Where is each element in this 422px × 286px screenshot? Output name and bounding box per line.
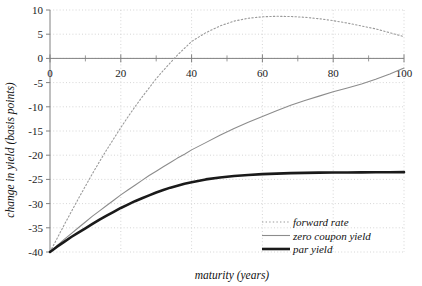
x-tick-label: 100 xyxy=(396,67,413,79)
gridlines-horizontal xyxy=(50,10,404,252)
y-tick-label: -15 xyxy=(28,125,43,137)
y-axis-tick-labels: 1050-5-10-15-20-25-30-35-40 xyxy=(28,4,43,258)
y-tick-label: -20 xyxy=(28,149,43,161)
y-tick-label: -25 xyxy=(28,173,43,185)
y-tick-label: 0 xyxy=(38,52,44,64)
legend-label-zero-coupon-yield: zero coupon yield xyxy=(292,230,371,242)
x-axis-title: maturity (years) xyxy=(195,269,270,282)
x-tick-label: 0 xyxy=(47,67,53,79)
y-axis-title: change in yield (basis points) xyxy=(4,82,17,218)
y-tick-label: 10 xyxy=(32,4,44,16)
y-tick-label: -30 xyxy=(28,198,43,210)
gridlines-vertical xyxy=(121,10,404,252)
y-tick-label: -5 xyxy=(34,77,44,89)
legend: forward ratezero coupon yieldpar yield xyxy=(262,216,371,255)
x-tick-label: 60 xyxy=(257,67,269,79)
series-line-zero-coupon-yield xyxy=(50,68,404,252)
x-axis-tick-labels: 020406080100 xyxy=(47,67,413,79)
x-tick-label: 80 xyxy=(328,67,340,79)
axis-ticks xyxy=(46,10,404,252)
legend-label-forward-rate: forward rate xyxy=(293,216,349,228)
legend-label-par-yield: par yield xyxy=(292,243,333,255)
chart-figure: 1050-5-10-15-20-25-30-35-40 020406080100… xyxy=(0,0,422,286)
data-series-lines xyxy=(50,16,404,252)
y-tick-label: 5 xyxy=(38,28,44,40)
x-tick-label: 20 xyxy=(115,67,127,79)
y-tick-label: -10 xyxy=(28,101,43,113)
y-tick-label: -40 xyxy=(28,246,43,258)
chart-plot-area: 1050-5-10-15-20-25-30-35-40 020406080100… xyxy=(0,0,422,286)
y-tick-label: -35 xyxy=(28,222,43,234)
x-tick-label: 40 xyxy=(186,67,198,79)
